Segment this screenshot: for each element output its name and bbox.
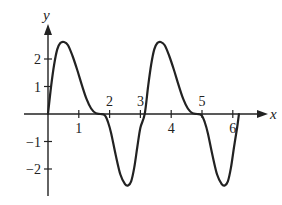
y-tick-label: −2: [26, 162, 41, 177]
function-plot: x 123456 y −2−112: [0, 0, 282, 205]
x-tick-label: 5: [199, 94, 206, 109]
y-axis-arrow-icon: [44, 24, 52, 35]
y-tick-label: 2: [34, 52, 41, 67]
x-axis-arrow-icon: [257, 110, 268, 118]
x-tick-label: 4: [168, 121, 175, 136]
y-axis: y −2−112: [26, 7, 52, 196]
y-tick-label: −1: [26, 135, 41, 150]
x-tick-label: 3: [137, 94, 144, 109]
y-axis-label: y: [41, 7, 50, 23]
x-ticks: 123456: [75, 94, 236, 136]
y-tick-label: 1: [34, 80, 41, 95]
x-axis-label: x: [269, 106, 277, 122]
x-tick-label: 1: [75, 121, 82, 136]
x-tick-label: 2: [106, 94, 113, 109]
